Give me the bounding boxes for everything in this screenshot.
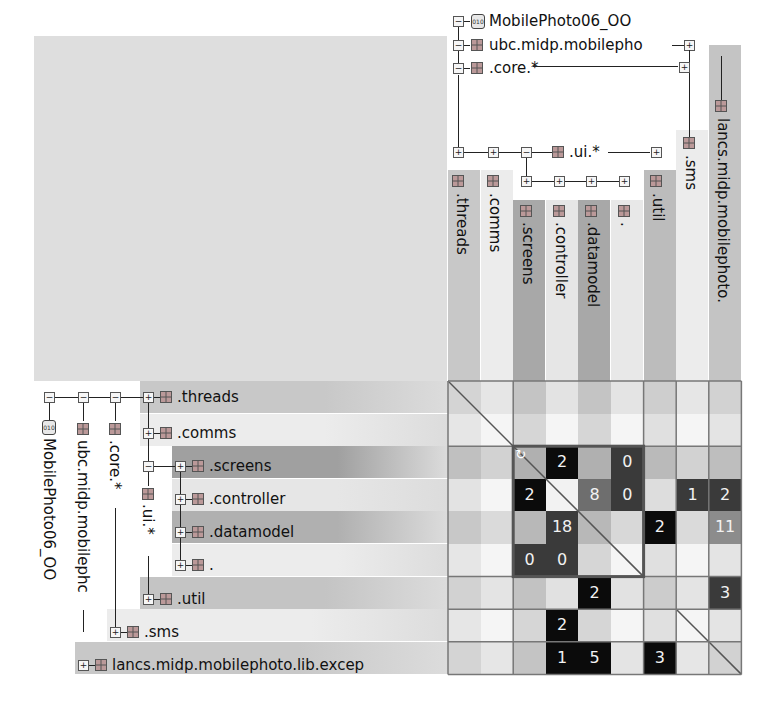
collapse-toggle[interactable]: −: [44, 392, 55, 403]
expand-toggle[interactable]: +: [453, 147, 464, 158]
expand-toggle[interactable]: +: [488, 147, 499, 158]
matrix-cell[interactable]: [611, 609, 644, 642]
column-label-util[interactable]: .util: [649, 193, 667, 222]
matrix-value-cell[interactable]: 2: [546, 609, 579, 642]
matrix-value-cell[interactable]: 5: [578, 642, 611, 675]
matrix-cell[interactable]: [611, 577, 644, 610]
matrix-cell[interactable]: [481, 479, 514, 512]
expand-toggle[interactable]: +: [175, 527, 186, 538]
matrix-cell[interactable]: [676, 446, 709, 479]
collapse-toggle[interactable]: −: [453, 40, 464, 51]
matrix-cell[interactable]: [578, 381, 611, 414]
matrix-cell[interactable]: [481, 446, 514, 479]
matrix-cell[interactable]: [448, 414, 481, 447]
matrix-value-cell[interactable]: 2: [546, 446, 579, 479]
expand-toggle[interactable]: +: [175, 494, 186, 505]
matrix-cell[interactable]: [709, 544, 742, 577]
matrix-cell[interactable]: [513, 609, 546, 642]
matrix-cell[interactable]: [611, 544, 644, 577]
matrix-cell[interactable]: [644, 479, 677, 512]
matrix-value-cell[interactable]: 8: [578, 479, 611, 512]
matrix-cell[interactable]: [546, 414, 579, 447]
matrix-value-cell[interactable]: 1: [546, 642, 579, 675]
matrix-cell[interactable]: [611, 511, 644, 544]
row-label-controller[interactable]: .controller: [209, 490, 285, 508]
matrix-cell[interactable]: [481, 511, 514, 544]
matrix-cell[interactable]: [676, 414, 709, 447]
row-label-sms[interactable]: .sms: [144, 623, 179, 641]
column-label-datamodel[interactable]: .datamodel: [584, 222, 602, 307]
expand-toggle[interactable]: +: [521, 176, 532, 187]
matrix-cell[interactable]: [481, 414, 514, 447]
column-label-threads[interactable]: .threads: [453, 193, 471, 255]
matrix-cell[interactable]: [644, 609, 677, 642]
matrix-cell[interactable]: [676, 642, 709, 675]
matrix-cell[interactable]: [709, 414, 742, 447]
column-label-root-ui[interactable]: .: [617, 222, 635, 227]
matrix-cell[interactable]: [611, 381, 644, 414]
matrix-cell[interactable]: [448, 479, 481, 512]
matrix-cell[interactable]: [448, 511, 481, 544]
matrix-value-cell[interactable]: 1: [676, 479, 709, 512]
matrix-value-cell[interactable]: 11: [709, 511, 742, 544]
column-label-controller[interactable]: .controller: [552, 222, 570, 298]
row-label-root-ui[interactable]: .: [209, 556, 214, 574]
expand-toggle[interactable]: +: [586, 176, 597, 187]
matrix-cell[interactable]: [546, 577, 579, 610]
matrix-value-cell[interactable]: 2: [513, 479, 546, 512]
collapse-toggle[interactable]: −: [78, 392, 89, 403]
expand-toggle[interactable]: +: [175, 461, 186, 472]
collapse-toggle[interactable]: −: [521, 147, 532, 158]
matrix-cell[interactable]: [448, 544, 481, 577]
expand-toggle[interactable]: +: [110, 627, 121, 638]
matrix-cell[interactable]: [676, 609, 709, 642]
matrix-value-cell[interactable]: 0: [546, 544, 579, 577]
matrix-cell[interactable]: [644, 446, 677, 479]
matrix-cell[interactable]: [448, 577, 481, 610]
matrix-cell[interactable]: [676, 381, 709, 414]
matrix-cell[interactable]: [709, 642, 742, 675]
matrix-value-cell[interactable]: 3: [644, 642, 677, 675]
matrix-cell[interactable]: [644, 544, 677, 577]
matrix-cell[interactable]: [709, 609, 742, 642]
column-label-sms[interactable]: .sms: [682, 155, 700, 190]
matrix-cell[interactable]: [546, 381, 579, 414]
row-label-comms[interactable]: .comms: [177, 424, 236, 442]
matrix-cell[interactable]: [513, 511, 546, 544]
matrix-value-cell[interactable]: 2: [578, 577, 611, 610]
collapse-toggle[interactable]: −: [110, 392, 121, 403]
matrix-cell[interactable]: [481, 609, 514, 642]
column-label-comms[interactable]: .comms: [486, 193, 504, 252]
matrix-cell[interactable]: [578, 544, 611, 577]
matrix-cell[interactable]: [578, 511, 611, 544]
matrix-cell[interactable]: [644, 577, 677, 610]
matrix-cell[interactable]: [546, 479, 579, 512]
collapse-toggle[interactable]: −: [143, 461, 154, 472]
matrix-cell[interactable]: [676, 511, 709, 544]
matrix-value-cell[interactable]: 18: [546, 511, 579, 544]
matrix-cell[interactable]: [481, 544, 514, 577]
matrix-cell[interactable]: [448, 381, 481, 414]
matrix-cell[interactable]: [513, 414, 546, 447]
matrix-value-cell[interactable]: 3: [709, 577, 742, 610]
matrix-cell[interactable]: [448, 642, 481, 675]
row-label-util[interactable]: .util: [177, 590, 206, 608]
matrix-cell[interactable]: [644, 381, 677, 414]
matrix-cell[interactable]: [513, 577, 546, 610]
column-label-lancs[interactable]: lancs.midp.mobilephoto.: [714, 118, 732, 303]
matrix-cell[interactable]: [709, 446, 742, 479]
matrix-cell[interactable]: [611, 414, 644, 447]
row-label-lancs[interactable]: lancs.midp.mobilephoto.lib.excep: [112, 656, 446, 674]
matrix-cell[interactable]: [448, 446, 481, 479]
column-label-screens[interactable]: .screens: [519, 222, 537, 284]
matrix-value-cell[interactable]: 0: [611, 446, 644, 479]
matrix-cell[interactable]: [513, 642, 546, 675]
expand-toggle[interactable]: +: [651, 147, 662, 158]
row-label-datamodel[interactable]: .datamodel: [209, 523, 294, 541]
matrix-cell[interactable]: [578, 446, 611, 479]
matrix-cell[interactable]: [578, 609, 611, 642]
expand-toggle[interactable]: +: [175, 560, 186, 571]
expand-toggle[interactable]: +: [619, 176, 630, 187]
matrix-cell[interactable]: [676, 577, 709, 610]
expand-toggle[interactable]: +: [679, 62, 690, 73]
